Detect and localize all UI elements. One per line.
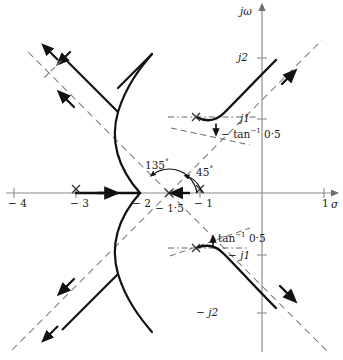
imaginary-axis-label: jω [240, 6, 252, 17]
asymptote-group [12, 40, 330, 354]
pole-markers [72, 113, 204, 252]
angle-arc-135 [152, 169, 197, 193]
real-axis-label: σ [331, 199, 338, 210]
root-locus-plot [0, 0, 343, 360]
x-tick-label--4: − 4 [8, 198, 27, 209]
axis-group [6, 10, 332, 352]
angle-135-label: 135° [145, 158, 169, 170]
x-tick-label--2: − 2 [132, 198, 151, 209]
angle-45-label: 45° [196, 165, 213, 177]
asymptote-315 [169, 193, 330, 354]
x-tick-label--1: − 1 [194, 198, 213, 209]
root-locus-figure: − 4 − 3 − 2 − 1 1 σ jω j2 j1 − j1 − j2 −… [0, 0, 343, 360]
tail-arrow-upper [46, 48, 58, 60]
asymptote-225 [12, 193, 169, 350]
locus-branch-right-lower-arrow [280, 286, 292, 298]
locus-branch-right-upper [196, 60, 276, 120]
y-tick-label--j2: − j2 [196, 307, 218, 318]
centroid-label: − 1·5 [155, 203, 184, 214]
locus-branch-left-upper-link [44, 61, 61, 78]
y-tick-label-j1: j1 [240, 113, 250, 124]
x-tick-label-1: 1 [322, 198, 329, 209]
departure-arrows [213, 124, 216, 248]
x-tick-label--3: − 3 [70, 198, 89, 209]
locus-branch-left-upper [115, 54, 152, 193]
departure-angle-lower-label: tan−1 0·5 [218, 232, 266, 243]
angle-arc-group [152, 169, 202, 193]
asymptote-135 [28, 52, 169, 193]
y-tick-label--j1: − j1 [228, 250, 250, 261]
tail-arrow-lower [46, 326, 58, 338]
departure-angle-upper-label: − tan−1 0·5 [221, 128, 281, 139]
locus-branch-left-lower [115, 193, 152, 332]
y-tick-label-j2: j2 [238, 52, 248, 63]
locus-branch-left-upper-tail [118, 54, 152, 88]
